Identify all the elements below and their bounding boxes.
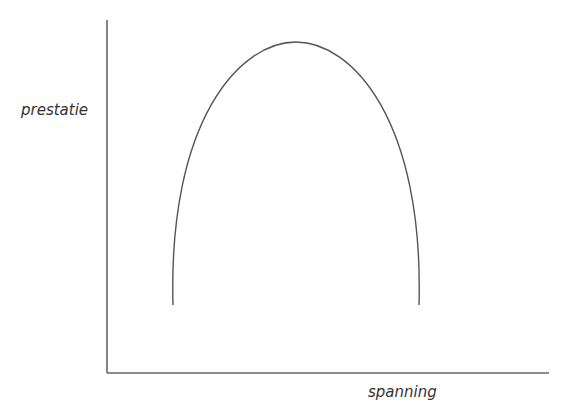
inverted-u-diagram	[0, 0, 566, 419]
x-axis-label: spanning	[368, 383, 437, 401]
performance-curve	[173, 42, 419, 305]
y-axis-label: prestatie	[21, 101, 88, 119]
